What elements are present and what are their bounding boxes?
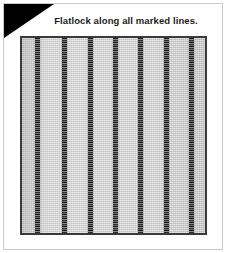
flatlock-seam-line	[189, 36, 194, 235]
flatlock-seam-line	[164, 36, 169, 235]
flatlock-seam-line	[113, 36, 118, 235]
flatlock-seam-line	[35, 36, 40, 235]
instruction-step-card: 5 Flatlock along all marked lines.	[0, 0, 226, 253]
fabric-swatch-panel	[20, 36, 207, 235]
flatlock-seam-line	[88, 36, 93, 235]
flatlock-seam-line	[138, 36, 143, 235]
flatlock-seam-line	[62, 36, 67, 235]
